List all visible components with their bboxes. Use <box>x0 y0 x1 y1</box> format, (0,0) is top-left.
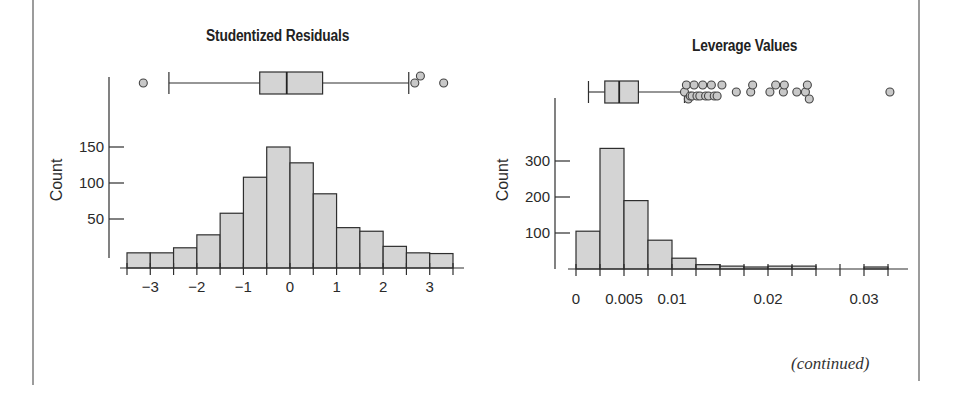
x-tick-label: −2 <box>188 278 205 295</box>
boxplot-outlier <box>699 81 707 89</box>
x-tick-label: −3 <box>142 278 159 295</box>
histogram-bar <box>406 253 429 268</box>
y-tick-label: 200 <box>525 188 550 205</box>
y-tick-label: 150 <box>79 138 104 155</box>
boxplot-outlier <box>718 81 726 89</box>
boxplot-outlier <box>749 81 757 89</box>
boxplot-outlier <box>707 81 715 89</box>
histogram-bar <box>313 194 336 268</box>
histogram-bar <box>430 254 453 268</box>
y-tick-label: 100 <box>525 224 550 241</box>
histogram-bar <box>383 246 406 268</box>
histogram-bar <box>672 258 696 269</box>
boxplot-outlier <box>411 79 419 87</box>
histogram-bar <box>197 235 220 268</box>
boxplot-outlier <box>805 95 813 103</box>
boxplot-box <box>260 72 323 94</box>
histogram-bar <box>600 148 624 269</box>
boxplot-outlier <box>886 88 894 96</box>
y-tick-label: 50 <box>87 210 104 227</box>
histogram-bar <box>337 228 360 268</box>
boxplot <box>588 81 893 103</box>
histogram-bar <box>648 240 672 269</box>
histogram-bar <box>696 265 720 269</box>
boxplot-box <box>605 81 639 103</box>
y-tick-label: 300 <box>525 152 550 169</box>
boxplot-outlier <box>766 88 774 96</box>
y-axis-label: Count <box>494 158 511 201</box>
histogram-bar <box>220 213 243 268</box>
histogram-bar <box>576 231 600 269</box>
x-tick-label: 0 <box>572 290 580 307</box>
histogram-bar <box>624 201 648 269</box>
x-tick-label: 1 <box>332 278 340 295</box>
continued-note: (continued) <box>791 354 869 374</box>
histogram-bars <box>127 147 453 268</box>
chart-0: −3−2−1012350100150Count <box>48 72 464 295</box>
boxplot <box>139 72 447 94</box>
y-tick-label: 100 <box>79 174 104 191</box>
boxplot-outlier <box>780 81 788 89</box>
histogram-bars <box>576 148 888 269</box>
histogram-bar <box>174 248 197 268</box>
boxplot-outlier <box>416 72 424 80</box>
histogram-bar <box>290 163 313 268</box>
histogram-bar <box>243 177 266 268</box>
y-axis-label: Count <box>48 158 65 201</box>
boxplot-outlier <box>139 79 147 87</box>
x-tick-label: 0.03 <box>849 290 878 307</box>
chart-1: 00.0050.010.020.03100200300Count <box>494 81 908 307</box>
x-tick-label: 2 <box>379 278 387 295</box>
histogram-bar <box>267 147 290 268</box>
x-tick-label: 0 <box>286 278 294 295</box>
boxplot-outlier <box>772 81 780 89</box>
histogram-bar <box>127 253 150 268</box>
histogram-bar <box>360 231 383 268</box>
boxplot-outlier <box>793 88 801 96</box>
x-tick-label: 0.02 <box>753 290 782 307</box>
x-tick-label: 0.005 <box>605 290 643 307</box>
boxplot-outlier <box>803 81 811 89</box>
boxplot-outlier <box>440 79 448 87</box>
boxplot-outlier <box>690 81 698 89</box>
x-tick-label: 3 <box>426 278 434 295</box>
histogram-bar <box>150 253 173 268</box>
x-tick-label: 0.01 <box>657 290 686 307</box>
boxplot-outlier <box>732 88 740 96</box>
boxplot-outlier <box>713 92 721 100</box>
x-tick-label: −1 <box>235 278 252 295</box>
boxplot-outlier <box>682 81 690 89</box>
charts-canvas: −3−2−1012350100150Count00.0050.010.020.0… <box>0 0 956 408</box>
